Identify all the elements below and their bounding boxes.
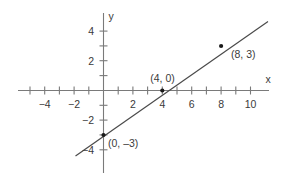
x-axis-label: x [265, 73, 271, 85]
data-point-4-0 [160, 88, 164, 92]
coordinate-plane: −4 −2 2 4 6 8 10 4 2 −2 −4 x y (4, 0) (8… [0, 0, 287, 182]
x-tick-label-minus4: −4 [39, 98, 51, 110]
x-tick-label-6: 6 [189, 98, 195, 110]
y-axis-label: y [108, 10, 114, 22]
point-label-8-3: (8, 3) [231, 48, 256, 60]
point-label-0-minus3: (0, –3) [108, 137, 138, 149]
point-label-4-0: (4, 0) [150, 72, 175, 84]
data-point-8-3 [219, 44, 223, 48]
graph-figure: −4 −2 2 4 6 8 10 4 2 −2 −4 x y (4, 0) (8… [0, 0, 287, 182]
x-tick-label-8: 8 [218, 98, 224, 110]
x-tick-label-4: 4 [159, 98, 165, 110]
x-tick-label-10: 10 [245, 98, 257, 110]
y-tick-label-minus4: −4 [82, 144, 94, 156]
y-tick-label-2: 2 [88, 55, 94, 67]
x-tick-label-2: 2 [130, 98, 136, 110]
data-point-0-minus3 [101, 133, 105, 137]
y-tick-label-4: 4 [88, 25, 94, 37]
x-tick-label-minus2: −2 [68, 98, 80, 110]
y-tick-label-minus2: −2 [82, 114, 94, 126]
